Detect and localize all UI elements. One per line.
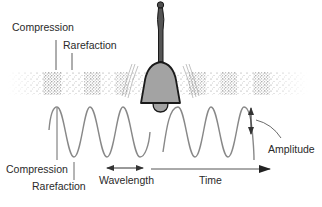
label-wavelength: Wavelength [99,175,154,186]
amplitude-leader [256,120,281,138]
waveform-left [49,107,150,157]
label-amplitude: Amplitude [268,144,315,155]
label-time: Time [199,175,222,186]
label-compression-top: Compression [12,22,74,33]
label-compression-bottom: Compression [6,164,68,175]
waveform-right [163,107,254,160]
bell [141,2,180,112]
label-rarefaction-top: Rarefaction [63,40,117,51]
sound-wave-diagram: Compression Rarefaction Compression Rare… [0,0,322,207]
label-rarefaction-bottom: Rarefaction [32,181,86,192]
